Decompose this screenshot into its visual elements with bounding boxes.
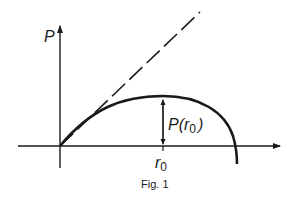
figure-caption: Fig. 1 [141,178,169,190]
figure-diagram: P P(r0) r0 Fig. 1 [0,0,291,203]
annotation-p-r0: P(r0) [168,116,203,136]
annotation-main: P(r [168,116,190,133]
annotation-sub: 0 [189,122,196,136]
r0-label: r0 [155,154,167,174]
p-curve [60,96,237,164]
y-axis-label: P [44,28,55,45]
annotation-close: ) [196,116,203,133]
